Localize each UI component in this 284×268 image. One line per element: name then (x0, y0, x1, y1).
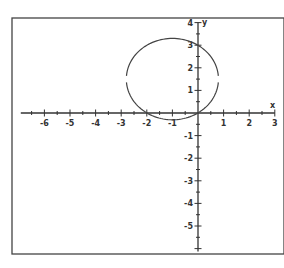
y-tick-label: 4 (187, 19, 193, 28)
axes (21, 23, 275, 252)
y-tick-label: 2 (187, 64, 193, 73)
graph-plot: -6-5-4-3-2-11234321-1-2-3-4-5 x y (0, 0, 284, 268)
y-tick-label: -4 (184, 199, 193, 208)
plot-frame (12, 18, 284, 254)
y-tick-label: -5 (184, 222, 193, 231)
x-tick-label: -2 (142, 119, 151, 128)
x-tick-label: 1 (221, 119, 227, 128)
y-tick-label: -1 (184, 132, 193, 141)
x-tick-label: -3 (117, 119, 126, 128)
y-tick-label: -2 (184, 154, 193, 163)
y-axis-label: y (202, 18, 208, 27)
circle-upper-arc (126, 38, 218, 75)
x-tick-label: -5 (66, 119, 75, 128)
x-tick-label: 3 (272, 119, 278, 128)
tick-labels: -6-5-4-3-2-11234321-1-2-3-4-5 (40, 19, 278, 231)
x-tick-label: 2 (246, 119, 252, 128)
curve-series (126, 38, 218, 119)
x-axis-label: x (270, 101, 276, 110)
x-tick-label: -4 (91, 119, 100, 128)
y-tick-label: -3 (184, 177, 193, 186)
x-tick-label: -6 (40, 119, 49, 128)
y-tick-label: 1 (187, 86, 193, 95)
